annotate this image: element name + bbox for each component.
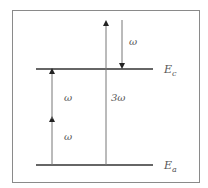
energy-level-diagram: ω ω ω 3ω Ec Ea	[0, 0, 208, 188]
label-emission-omega: ω	[129, 36, 137, 47]
level-lower-symbol: E	[163, 159, 172, 172]
arrow-head-up-icon	[103, 20, 109, 26]
arrow-head-down-icon	[119, 63, 125, 69]
label-level-upper: Ec	[163, 63, 177, 78]
level-upper-subscript: c	[172, 69, 177, 78]
label-level-lower: Ea	[163, 159, 177, 174]
level-lower-subscript: a	[172, 165, 177, 174]
label-upper-step-omega: ω	[64, 92, 72, 103]
level-upper-symbol: E	[163, 63, 172, 76]
label-lower-step-omega: ω	[64, 131, 72, 142]
label-three-omega: 3ω	[111, 92, 126, 103]
